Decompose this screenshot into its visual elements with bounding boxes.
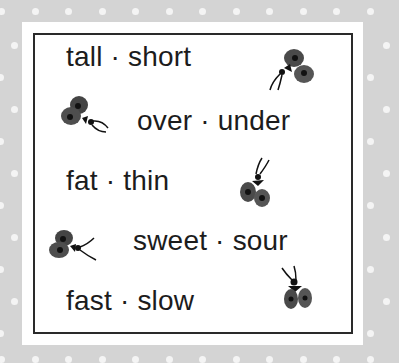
background-dot: [11, 234, 18, 241]
background-dot: [266, 356, 273, 363]
background-dot: [0, 356, 5, 363]
background-dot: [0, 330, 4, 337]
background-dot: [199, 8, 206, 15]
background-dot: [233, 8, 240, 15]
background-dot: [99, 356, 106, 363]
bug-icon: [58, 94, 114, 138]
background-dot: [65, 356, 72, 363]
background-dot: [333, 356, 340, 363]
background-dot: [0, 266, 4, 273]
background-dot: [132, 8, 139, 15]
background-dot: [99, 8, 106, 15]
background-dot: [32, 8, 39, 15]
word-pair-tall-short: tall · short: [66, 43, 191, 71]
background-dot: [166, 356, 173, 363]
background-dot: [367, 266, 374, 273]
word-pair-over-under: over · under: [137, 107, 290, 135]
background-dot: [132, 356, 139, 363]
background-dot: [0, 138, 4, 145]
background-dot: [11, 298, 18, 305]
bug-icon: [278, 264, 320, 314]
background-dot: [383, 42, 390, 49]
bug-icon: [236, 156, 276, 210]
background-dot: [266, 8, 273, 15]
bug-icon: [46, 228, 102, 268]
background-dot: [11, 170, 18, 177]
background-dot: [0, 74, 4, 81]
background-dot: [11, 106, 18, 113]
background-dot: [383, 106, 390, 113]
word-pair-fast-slow: fast · slow: [66, 287, 194, 315]
background-dot: [32, 356, 39, 363]
bug-icon: [262, 44, 318, 94]
background-dot: [367, 138, 374, 145]
background-dot: [199, 356, 206, 363]
word-pair-sweet-sour: sweet · sour: [133, 227, 288, 255]
word-pair-fat-thin: fat · thin: [66, 167, 169, 195]
background-dot: [383, 234, 390, 241]
background-dot: [367, 74, 374, 81]
background-dot: [367, 330, 374, 337]
background-dot: [233, 356, 240, 363]
background-dot: [0, 202, 4, 209]
background-dot: [367, 356, 374, 363]
background-dot: [367, 8, 374, 15]
background-dot: [333, 8, 340, 15]
background-dot: [11, 42, 18, 49]
background-dot: [166, 8, 173, 15]
background-dot: [383, 298, 390, 305]
background-dot: [300, 356, 307, 363]
background-dot: [383, 170, 390, 177]
background-dot: [300, 8, 307, 15]
background-dot: [367, 202, 374, 209]
background-dot: [65, 8, 72, 15]
background-dot: [0, 8, 5, 15]
